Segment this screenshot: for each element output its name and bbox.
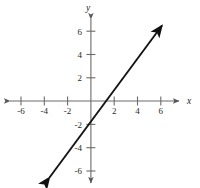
x-tick-label-pos4: 4 [135,106,140,116]
y-axis-label: y [85,3,91,13]
x-axis-label: x [186,96,192,106]
coordinate-graph: y x -6 -4 -2 2 4 6 6 4 2 -2 -4 -6 [0,0,200,188]
x-tick-label-pos2: 2 [112,106,117,116]
y-tick-label-neg4: -4 [75,143,83,153]
y-tick-label-pos2: 2 [78,73,83,83]
y-tick-label-neg6: -6 [75,166,83,176]
x-tick-label-neg6: -6 [17,106,25,116]
x-axis [10,97,179,106]
y-tick-label-neg2: -2 [75,120,83,130]
x-tick-label-neg2: -2 [64,106,72,116]
x-tick-label-pos6: 6 [159,106,164,116]
x-tick-label-neg4: -4 [41,106,49,116]
y-tick-label-pos6: 6 [78,27,83,37]
graph-svg: y x -6 -4 -2 2 4 6 6 4 2 -2 -4 -6 [0,0,200,188]
y-tick-label-pos4: 4 [78,50,83,60]
